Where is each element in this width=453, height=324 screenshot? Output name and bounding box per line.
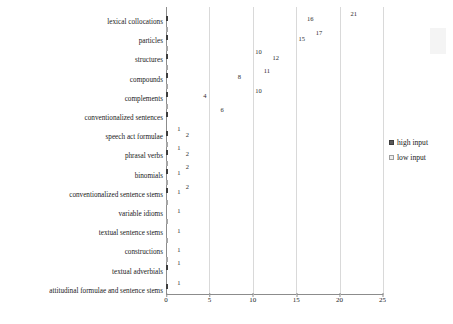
category-label: complements [125, 96, 163, 103]
bar-group: 12 [166, 141, 383, 160]
bar-slot: 12 [166, 55, 383, 60]
legend-item-high-input: high input [389, 139, 451, 147]
bar-slot: 8 [166, 74, 383, 79]
bar-group: 1 [166, 218, 383, 237]
tick-mark [253, 293, 254, 297]
bar-value-label: 1 [177, 170, 180, 177]
plot-area: 21161715101211810461212212111111 [166, 7, 383, 295]
bar-value-label: 15 [298, 35, 305, 42]
bar-slot: 2 [166, 184, 383, 189]
bar-slot: 2 [166, 132, 383, 137]
bar-slot: 1 [166, 146, 383, 151]
bar-group: 2116 [166, 7, 383, 26]
bar-value-label: 1 [177, 279, 180, 286]
category-label: variable idioms [118, 211, 163, 218]
bar-fill [166, 112, 168, 117]
tick-mark [340, 293, 341, 297]
category-axis-labels: lexical collocations particles structure… [0, 7, 163, 295]
bar-chart: lexical collocations particles structure… [0, 0, 453, 324]
bar-slot: 1 [166, 261, 383, 266]
x-tick-label: 5 [208, 296, 212, 304]
bar-slot: 1 [166, 247, 383, 252]
legend-label: low input [397, 154, 426, 162]
x-tick-label: 10 [249, 296, 256, 304]
bar-value-label: 1 [177, 189, 180, 196]
bar-slot: 21 [166, 11, 383, 16]
bar-group: 1 [166, 276, 383, 295]
bar-group: 118 [166, 65, 383, 84]
category-label: compounds [130, 77, 163, 84]
bar-group: 12 [166, 122, 383, 141]
tick-mark [383, 293, 384, 297]
bar-group: 104 [166, 84, 383, 103]
tick-mark [166, 293, 167, 297]
bar [166, 265, 175, 270]
bar-value-label: 1 [177, 208, 180, 215]
bar-fill [166, 265, 168, 270]
bar-group: 21 [166, 161, 383, 180]
bar-slot: 11 [166, 69, 383, 74]
bar-value-label: 16 [307, 16, 314, 23]
bar-group: 1 [166, 199, 383, 218]
legend-item-low-input: low input [389, 154, 451, 162]
x-axis-ticks: 0 5 10 15 20 25 [166, 297, 383, 311]
bar-group: 1715 [166, 26, 383, 45]
bar-slot: 15 [166, 36, 383, 41]
x-tick-label: 15 [293, 296, 300, 304]
bar-value-label: 2 [186, 131, 189, 138]
bar-slot: 17 [166, 30, 383, 35]
bar-slot: 1 [166, 209, 383, 214]
bar-slot: 1 [166, 170, 383, 175]
x-tick-label: 0 [164, 296, 168, 304]
category-label: textual sentence stems [99, 231, 163, 238]
bar-slot: 2 [166, 165, 383, 170]
bar-fill [166, 284, 168, 289]
category-label: lexical collocations [107, 19, 163, 26]
bar [166, 284, 175, 289]
bar-slot: 4 [166, 94, 383, 99]
category-label: speech act formulae [106, 135, 163, 142]
category-label: structures [135, 58, 163, 65]
tick-mark [209, 293, 210, 297]
category-label: particles [139, 39, 163, 46]
bar-group: 1012 [166, 45, 383, 64]
bar-slot: 16 [166, 17, 383, 22]
bar-slot: 1 [166, 280, 383, 285]
legend-swatch-icon [389, 155, 394, 160]
category-label: conventionalized sentence stems [69, 192, 163, 199]
category-label: conventionalized sentences [85, 115, 163, 122]
scan-artifact [430, 28, 446, 54]
tick-mark [296, 293, 297, 297]
bar-group: 1 [166, 257, 383, 276]
bar-slot: 1 [166, 228, 383, 233]
bar-value-label: 6 [220, 107, 223, 114]
bar-rows: 21161715101211810461212212111111 [166, 7, 383, 295]
category-label: constructions [125, 250, 163, 257]
bar-value-label: 8 [238, 74, 241, 81]
bar-group: 21 [166, 180, 383, 199]
bar-slot: 6 [166, 107, 383, 112]
category-label: phrasal verbs [125, 154, 163, 161]
bar-value-label: 1 [177, 247, 180, 254]
bar-group: 1 [166, 237, 383, 256]
bar-value-label: 4 [203, 93, 206, 100]
category-label: textual adverbials [112, 269, 163, 276]
legend-swatch-icon [389, 140, 394, 145]
bar [166, 112, 218, 117]
x-tick-label: 20 [336, 296, 343, 304]
bar-slot: 1 [166, 190, 383, 195]
bar-value-label: 1 [177, 260, 180, 267]
bar-value-label: 2 [186, 151, 189, 158]
legend-label: high input [397, 139, 428, 147]
chart-legend: high input low input [389, 139, 451, 168]
bar-value-label: 12 [272, 55, 279, 62]
category-label: attitudinal formulae and sentence stems [49, 288, 163, 295]
bar-group: 6 [166, 103, 383, 122]
bar-value-label: 1 [177, 227, 180, 234]
category-label: binomials [135, 173, 163, 180]
x-tick-label: 25 [379, 296, 386, 304]
bar-slot: 10 [166, 88, 383, 93]
bar-slot: 1 [166, 126, 383, 131]
bar-slot: 2 [166, 151, 383, 156]
